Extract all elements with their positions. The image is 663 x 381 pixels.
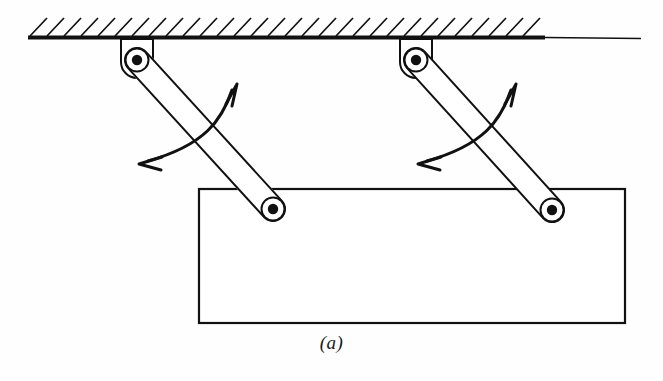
ceiling-ground (28, 18, 641, 39)
right-link-top-pivot (411, 55, 421, 65)
left-link-bottom-pivot (268, 204, 278, 214)
ceiling-hatching (30, 18, 540, 36)
mechanism-figure: (a) (0, 0, 663, 381)
figure-caption: (a) (0, 332, 663, 354)
figure-canvas (0, 0, 663, 381)
left-link-top-pivot (132, 55, 142, 65)
right-link-bottom-pivot (547, 205, 557, 215)
ceiling-line-extension (545, 38, 641, 39)
